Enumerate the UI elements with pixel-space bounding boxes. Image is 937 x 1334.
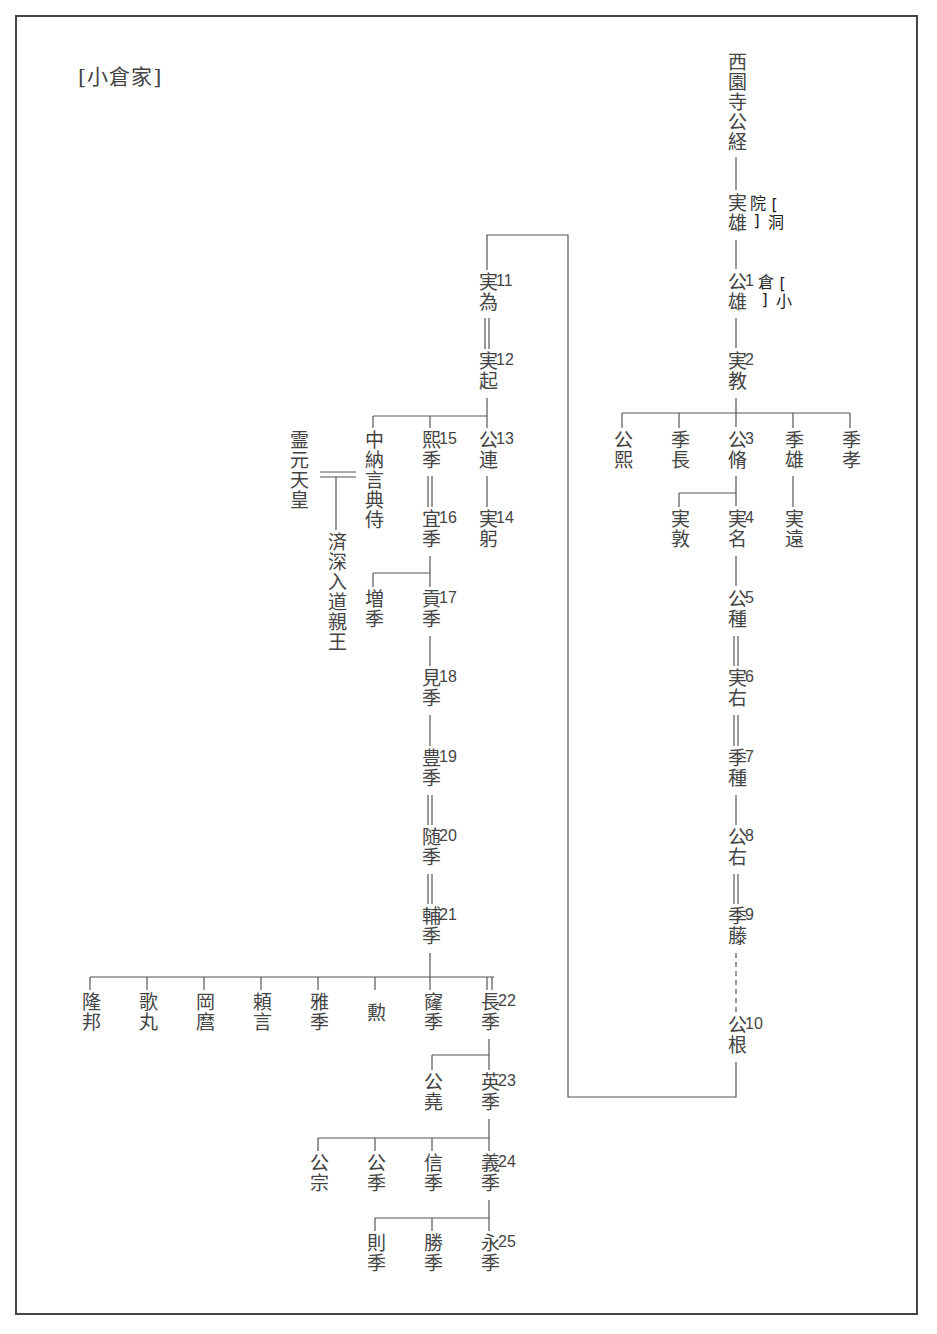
person-name: 霊元天皇 (287, 430, 309, 510)
person-name: 信季 (421, 1153, 443, 1193)
house-tag-ogura: [小倉] (755, 274, 791, 309)
person-node: 公季 (364, 1153, 386, 1193)
person-name: 季種 (725, 748, 747, 788)
succession-number: 23 (498, 1072, 516, 1090)
person-node: 実起12 (476, 351, 498, 391)
person-node: 輔季21 (419, 906, 441, 946)
person-name: 岡麿 (193, 992, 215, 1032)
person-node: 実遠 (782, 509, 804, 549)
succession-number: 14 (496, 509, 514, 527)
person-name: 公右 (725, 827, 747, 867)
person-name: 勲 (364, 1003, 386, 1023)
person-node: 中納言典侍 (362, 430, 384, 530)
genealogy-lines (0, 0, 937, 1334)
succession-number: 5 (745, 589, 754, 607)
person-node: 済深入道親王 (325, 532, 347, 652)
person-name: 頼言 (250, 992, 272, 1032)
person-node: 実雄 (725, 193, 747, 233)
person-node: 公右8 (725, 827, 747, 867)
person-node: 公熙 (611, 430, 633, 470)
succession-number: 20 (439, 827, 457, 845)
person-name: 季雄 (782, 430, 804, 470)
person-name: 宜季 (419, 509, 441, 549)
person-name: 実雄 (725, 193, 747, 233)
person-node: 歌丸 (136, 992, 158, 1032)
person-name: 実遠 (782, 509, 804, 549)
person-name: 随季 (419, 827, 441, 867)
person-name: 増季 (362, 589, 384, 629)
person-node: 西園寺公経 (725, 52, 747, 152)
person-name: 公堯 (421, 1072, 443, 1112)
person-node: 義季24 (478, 1153, 500, 1193)
person-node: 勝季 (421, 1233, 443, 1273)
person-node: 岡麿 (193, 992, 215, 1032)
person-name: 義季 (478, 1153, 500, 1193)
person-node: 信季 (421, 1153, 443, 1193)
person-node: 永季25 (478, 1233, 500, 1273)
person-name: 歌丸 (136, 992, 158, 1032)
person-node: 随季20 (419, 827, 441, 867)
succession-number: 10 (745, 1015, 763, 1033)
succession-number: 2 (745, 351, 754, 369)
person-node: 公種5 (725, 589, 747, 629)
person-node: 貢季17 (419, 589, 441, 629)
person-name: 熙季 (419, 430, 441, 470)
person-name: 公季 (364, 1153, 386, 1193)
person-node: 宜季16 (419, 509, 441, 549)
person-name: 実敦 (668, 509, 690, 549)
person-name: 公種 (725, 589, 747, 629)
person-node: 英季23 (478, 1072, 500, 1112)
house-tag-toin: [洞院] (747, 195, 783, 230)
person-node: 実躬14 (476, 509, 498, 549)
person-name: 長季 (478, 992, 500, 1032)
person-node: 霊元天皇 (287, 430, 309, 510)
succession-number: 3 (745, 430, 754, 448)
succession-number: 18 (439, 668, 457, 686)
succession-number: 24 (498, 1153, 516, 1171)
person-name: 公脩 (725, 430, 747, 470)
succession-number: 19 (439, 748, 457, 766)
succession-number: 17 (439, 589, 457, 607)
succession-number: 1 (745, 272, 754, 290)
person-name: 公根 (725, 1015, 747, 1055)
succession-number: 7 (745, 748, 754, 766)
person-node: 公根10 (725, 1015, 747, 1055)
person-name: 実教 (725, 351, 747, 391)
person-name: 英季 (478, 1072, 500, 1112)
person-node: 実右6 (725, 668, 747, 708)
person-node: 豊季19 (419, 748, 441, 788)
person-name: 実為 (476, 272, 498, 312)
succession-number: 4 (745, 509, 754, 527)
person-node: 季藤9 (725, 906, 747, 946)
person-node: 則季 (364, 1233, 386, 1273)
person-name: 輔季 (419, 906, 441, 946)
person-name: 実名 (725, 509, 747, 549)
succession-number: 15 (439, 430, 457, 448)
person-node: 見季18 (419, 668, 441, 708)
person-node: 熙季15 (419, 430, 441, 470)
person-name: 季孝 (839, 430, 861, 470)
person-name: 公熙 (611, 430, 633, 470)
person-name: 則季 (364, 1233, 386, 1273)
person-node: 雅季 (307, 992, 329, 1032)
succession-number: 9 (745, 906, 754, 924)
succession-number: 22 (498, 992, 516, 1010)
person-name: 西園寺公経 (725, 52, 747, 152)
person-name: 豊季 (419, 748, 441, 788)
person-node: 実敦 (668, 509, 690, 549)
person-name: 済深入道親王 (325, 532, 347, 652)
person-node: 公脩3 (725, 430, 747, 470)
person-node: 公連13 (476, 430, 498, 470)
person-name: 季長 (668, 430, 690, 470)
person-node: 実為11 (476, 272, 498, 312)
person-name: 実起 (476, 351, 498, 391)
succession-number: 12 (496, 351, 514, 369)
person-name: 実右 (725, 668, 747, 708)
person-name: 実躬 (476, 509, 498, 549)
person-name: 永季 (478, 1233, 500, 1273)
person-node: 実教2 (725, 351, 747, 391)
person-name: 公雄 (725, 272, 747, 312)
person-node: 公雄1 (725, 272, 747, 312)
person-name: 勝季 (421, 1233, 443, 1273)
person-node: 増季 (362, 589, 384, 629)
